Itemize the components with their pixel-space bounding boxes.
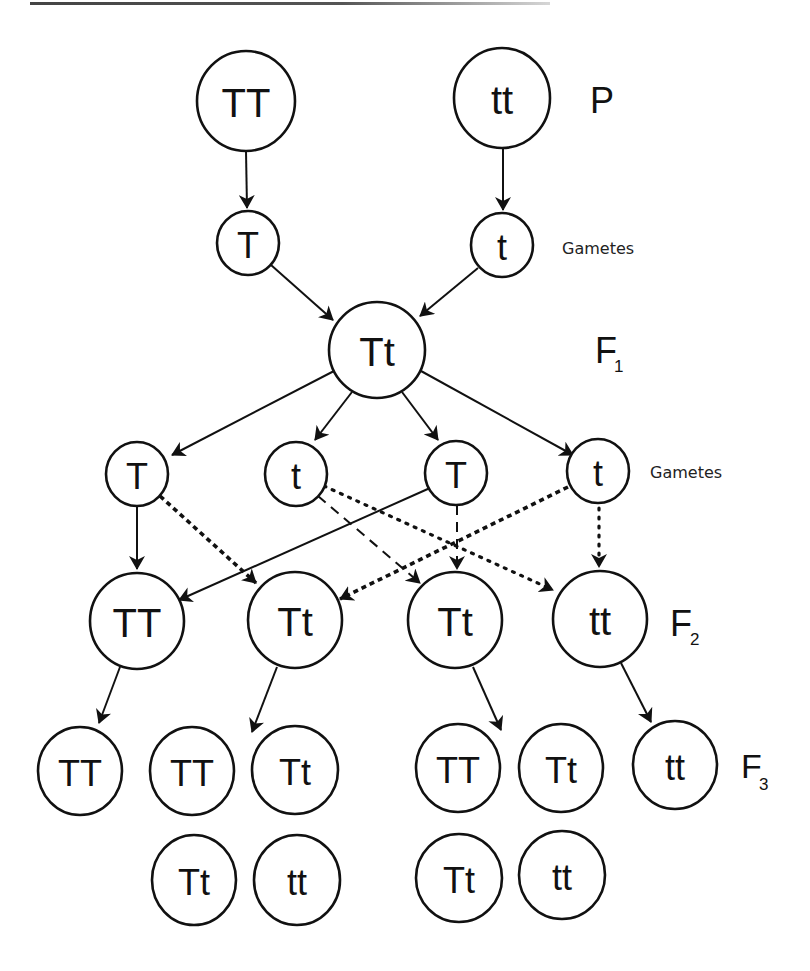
genotype-label: tt xyxy=(589,599,611,643)
f1-gamete-t1-node: t xyxy=(265,442,327,506)
parent-gamete-t-node: t xyxy=(471,213,533,277)
parent-tt-node: tt xyxy=(454,48,550,148)
f2-Tt2-node: Tt xyxy=(408,572,502,668)
parent-gamete-T-node: T xyxy=(217,211,279,275)
f2-Tt1-node: Tt xyxy=(248,572,342,668)
gametes-label-1: Gametes xyxy=(562,239,634,258)
arrow-F2-Tt1-to-F3 xyxy=(252,667,277,732)
generation-label-p: P xyxy=(590,80,614,121)
allele-label: T xyxy=(126,456,148,497)
generation-label-f3-subscript: 3 xyxy=(759,775,768,794)
allele-label: T xyxy=(445,455,467,496)
f3-node: Tt xyxy=(252,726,338,814)
f2-tt-node: tt xyxy=(553,571,647,667)
genotype-label: TT xyxy=(170,753,214,794)
genotype-label: Tt xyxy=(443,860,475,901)
f3-node: TT xyxy=(150,727,234,815)
genotype-label: tt xyxy=(665,747,685,788)
f3-node: Tt xyxy=(416,834,502,922)
f3-node: tt xyxy=(633,721,717,809)
genotype-label: TT xyxy=(58,753,102,794)
f3-from-Tt-right-group: TT Tt Tt tt xyxy=(416,724,605,922)
genotype-label: TT xyxy=(436,750,480,791)
genotype-label: Tt xyxy=(359,330,395,374)
f1-Tt-node: Tt xyxy=(329,302,425,398)
generation-label-f2: F xyxy=(670,603,692,644)
arrow-TT-to-T xyxy=(246,151,247,208)
arrow-t-to-F1 xyxy=(420,268,478,316)
f3-node: TT xyxy=(38,727,122,815)
arrow-F1-to-gamete-T2 xyxy=(402,392,438,440)
genotype-label: tt xyxy=(552,857,572,898)
arrow-F2-Tt2-to-F3 xyxy=(473,667,501,730)
allele-label: t xyxy=(593,453,603,494)
line-t1-to-F2-Tt2 xyxy=(318,496,420,583)
genotype-label: tt xyxy=(287,862,307,903)
genotype-label: TT xyxy=(222,81,271,125)
f2-TT-node: TT xyxy=(90,573,184,669)
line-T1-to-F2-Tt1 xyxy=(160,496,256,583)
f3-from-TT-group: TT xyxy=(38,727,122,815)
f3-node: Tt xyxy=(152,835,236,925)
gametes-label-2: Gametes xyxy=(650,463,722,482)
genetic-cross-diagram: TT tt P T t Gametes Tt F 1 T t T t Gamet… xyxy=(0,0,810,971)
f1-gamete-T2-node: T xyxy=(425,441,487,505)
genotype-label: Tt xyxy=(545,750,577,791)
allele-label: t xyxy=(497,227,507,268)
f3-node: tt xyxy=(254,835,340,925)
allele-label: T xyxy=(237,225,259,266)
f3-node: tt xyxy=(519,831,605,919)
arrow-F2-tt-to-F3 xyxy=(621,663,651,722)
generation-label-f2-subscript: 2 xyxy=(690,630,699,649)
genotype-label: tt xyxy=(491,78,513,122)
arrow-T-to-F1 xyxy=(271,265,333,320)
f3-node: Tt xyxy=(519,724,603,812)
f1-gamete-T1-node: T xyxy=(106,442,168,506)
arrow-F1-to-gamete-T1 xyxy=(172,371,334,455)
generation-label-f1-subscript: 1 xyxy=(614,357,623,376)
genotype-label: Tt xyxy=(437,600,473,644)
f3-node: TT xyxy=(416,724,500,812)
parent-TT-node: TT xyxy=(197,51,295,151)
f1-gamete-t2-node: t xyxy=(567,439,629,503)
f3-from-tt-group: tt xyxy=(633,721,717,809)
allele-label: t xyxy=(291,456,301,497)
arrow-F1-to-gamete-t1 xyxy=(315,392,352,440)
genotype-label: Tt xyxy=(178,862,210,903)
genotype-label: TT xyxy=(113,601,162,645)
genotype-label: Tt xyxy=(279,752,311,793)
genotype-label: Tt xyxy=(277,600,313,644)
arrow-F2-TT-to-F3 xyxy=(99,667,120,723)
f3-from-Tt-left-group: TT Tt Tt tt xyxy=(150,726,340,925)
